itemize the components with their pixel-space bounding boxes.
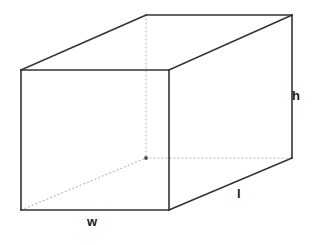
height-dimension-label: h [292, 89, 300, 102]
width-dimension-label: w [87, 215, 97, 228]
bottom-right-receding-edge [169, 158, 292, 210]
top-left-receding-edge [21, 15, 146, 70]
hidden-vertex-dot [144, 156, 148, 160]
rectangular-prism-figure: h l w [0, 0, 315, 245]
length-dimension-label: l [237, 187, 241, 200]
visible-edges-group [21, 15, 292, 210]
hidden-edges-group [21, 15, 292, 210]
prism-wireframe-svg [0, 0, 315, 245]
top-right-receding-edge [169, 15, 292, 70]
hidden-bottom-left-receding-edge [21, 158, 146, 210]
